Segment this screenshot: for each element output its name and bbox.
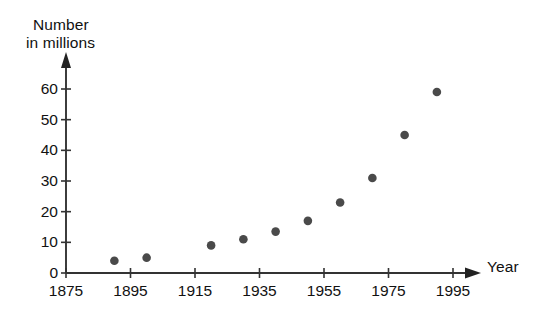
data-point (433, 88, 442, 97)
tick-marks (61, 89, 453, 278)
data-point (304, 217, 313, 226)
data-point (110, 256, 119, 265)
data-point (142, 253, 151, 262)
data-point (239, 235, 248, 244)
data-point (336, 198, 345, 207)
data-point (368, 174, 377, 183)
y-axis-arrow-icon (61, 52, 71, 68)
data-points (110, 88, 441, 265)
data-point (400, 131, 409, 140)
scatter-chart: Number in millions Year 1875189519151935… (0, 0, 539, 318)
data-point (207, 241, 216, 250)
x-axis-arrow-icon (465, 268, 481, 279)
plot-area (0, 0, 539, 318)
data-point (271, 227, 280, 236)
